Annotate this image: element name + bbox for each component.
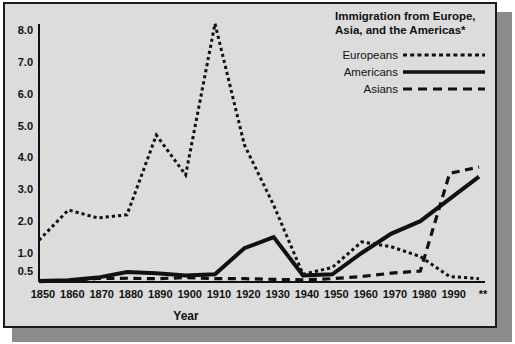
x-tick-label: 1900: [177, 288, 201, 300]
line-chart: 0.51.02.03.04.05.06.07.08.0 185018601870…: [5, 4, 495, 326]
y-tick-label: 3.0: [18, 183, 33, 195]
x-tick-label: 1970: [383, 288, 407, 300]
y-axis-tick-labels: 0.51.02.03.04.05.06.07.08.0: [18, 24, 33, 277]
x-tick-label: 1980: [412, 288, 436, 300]
y-tick-label: 2.0: [18, 215, 33, 227]
x-axis-title: Year: [173, 309, 199, 323]
chart-frame: 0.51.02.03.04.05.06.07.08.0 185018601870…: [3, 2, 497, 328]
x-tick-label: **: [479, 288, 488, 300]
x-tick-label: 1940: [295, 288, 319, 300]
legend-label-europeans: Europeans: [342, 49, 398, 61]
x-tick-label: 1990: [441, 288, 465, 300]
y-tick-label: 1.0: [18, 247, 33, 259]
x-tick-label: 1960: [353, 288, 377, 300]
x-tick-label: 1920: [236, 288, 260, 300]
legend-label-asians: Asians: [363, 83, 398, 95]
x-tick-label: 1870: [89, 288, 113, 300]
x-tick-label: 1890: [148, 288, 172, 300]
y-tick-label: 8.0: [18, 24, 33, 36]
series-line-americans: [39, 177, 479, 281]
x-tick-label: 1880: [119, 288, 143, 300]
x-tick-label: 1850: [31, 288, 55, 300]
legend-title-line-2: Asia, and the Americas*: [335, 24, 466, 36]
x-axis-tick-labels: 1850186018701880189019001910192019301940…: [31, 288, 488, 300]
x-tick-label: 1860: [60, 288, 84, 300]
y-tick-label: 6.0: [18, 88, 33, 100]
series-line-europeans: [39, 24, 479, 279]
chart-legend: Immigration from Europe, Asia, and the A…: [335, 10, 485, 95]
plot-surface: 0.51.02.03.04.05.06.07.08.0 185018601870…: [5, 4, 495, 326]
x-tick-label: 1950: [324, 288, 348, 300]
y-tick-label: 4.0: [18, 151, 33, 163]
chart-figure: 0.51.02.03.04.05.06.07.08.0 185018601870…: [0, 0, 515, 344]
data-series-group: [39, 24, 479, 282]
y-tick-label: 0.5: [18, 265, 33, 277]
legend-title-line-1: Immigration from Europe,: [335, 10, 476, 22]
legend-label-americans: Americans: [344, 66, 399, 78]
y-tick-label: 7.0: [18, 56, 33, 68]
x-tick-label: 1930: [265, 288, 289, 300]
x-tick-label: 1910: [207, 288, 231, 300]
y-tick-label: 5.0: [18, 120, 33, 132]
